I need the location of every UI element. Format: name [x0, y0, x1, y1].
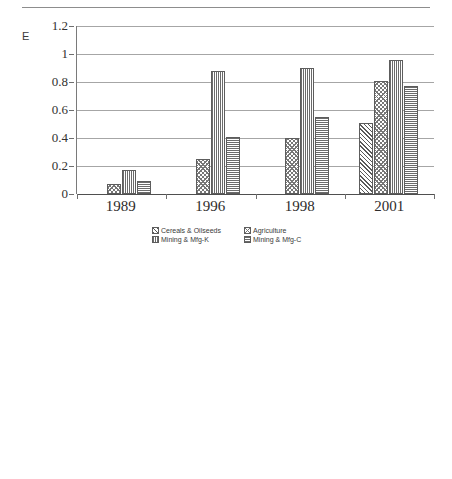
bar-groups [77, 26, 434, 194]
y-tick-label: 0.2 [52, 158, 68, 174]
chart-panel-f: F 00.20.40.60.811.2 1989199619982001 Bas… [0, 240, 452, 464]
bar [359, 123, 373, 194]
bar [122, 170, 136, 194]
x-axis-labels-e: 1989199619982001 [76, 198, 434, 215]
bar [300, 68, 314, 194]
y-tick-mark [69, 26, 74, 27]
plot-canvas-e [76, 26, 434, 194]
bar [374, 81, 388, 194]
legend-swatch-icon [152, 227, 159, 234]
legend-row: Cereals & OilseedsAgriculture [152, 226, 301, 235]
bar [315, 117, 329, 194]
x-tick-label: 1998 [255, 198, 345, 215]
chart-panel-e: E 00.20.40.60.811.2 1989199619982001 Cer… [0, 0, 452, 240]
y-tick-label: 0.8 [52, 74, 68, 90]
legend-label: Cereals & Oilseeds [161, 226, 221, 235]
y-tick-label: 0.6 [52, 102, 68, 118]
bar-group [256, 26, 345, 194]
bar-group [166, 26, 255, 194]
bar [285, 138, 299, 194]
y-tick-label: 0 [62, 186, 69, 202]
y-tick-label: 0.4 [52, 130, 68, 146]
bar [211, 71, 225, 194]
x-tick-label: 1996 [166, 198, 256, 215]
bar [226, 137, 240, 194]
bar [389, 60, 403, 194]
x-tick-label: 1989 [76, 198, 166, 215]
bar [107, 184, 121, 194]
y-tick-mark [69, 54, 74, 55]
bar [196, 159, 210, 194]
y-tick-mark [69, 110, 74, 111]
bar [404, 86, 418, 194]
y-tick-mark [69, 194, 74, 195]
y-tick-mark [69, 166, 74, 167]
panel-letter-e: E [22, 30, 30, 42]
y-tick-label: 1.2 [52, 18, 68, 34]
x-tick-mark [434, 194, 435, 199]
bar-group [345, 26, 434, 194]
bar [137, 181, 151, 194]
y-tick-label: 1 [62, 46, 69, 62]
y-axis-e: 00.20.40.60.811.2 [40, 26, 74, 196]
legend-swatch-icon [244, 227, 251, 234]
plot-area-e: 00.20.40.60.811.2 [40, 26, 440, 196]
legend-label: Agriculture [253, 226, 286, 235]
bar-group [77, 26, 166, 194]
y-tick-mark [69, 138, 74, 139]
y-tick-mark [69, 82, 74, 83]
x-tick-label: 2001 [345, 198, 435, 215]
legend-item: Cereals & Oilseeds [152, 226, 244, 235]
legend-item: Agriculture [244, 226, 286, 235]
